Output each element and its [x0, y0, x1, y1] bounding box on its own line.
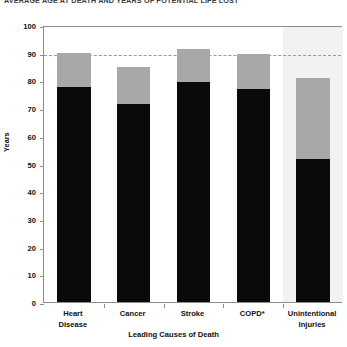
bar-cancer	[117, 67, 150, 302]
y-axis-label: 70	[28, 105, 36, 114]
y-axis-tick	[40, 110, 44, 111]
bar-segment-age-at-death	[237, 89, 270, 302]
bar-segment-years-lost	[237, 54, 270, 89]
bar-segment-years-lost	[57, 53, 90, 88]
y-axis-label: 40	[28, 188, 36, 197]
bar-segment-age-at-death	[296, 159, 329, 302]
bar-segment-years-lost	[177, 49, 210, 82]
x-axis-title: Leading Causes of Death	[0, 330, 347, 339]
y-axis-label: 50	[28, 160, 36, 169]
bar-segment-years-lost	[117, 67, 150, 104]
x-axis-tick	[283, 304, 284, 308]
y-axis-label: 90	[28, 49, 36, 58]
y-axis-label: 100	[23, 22, 36, 31]
y-axis-tick	[40, 276, 44, 277]
y-axis-label: 80	[28, 77, 36, 86]
chart-title: AVERAGE AGE AT DEATH AND YEARS OF POTENT…	[4, 0, 304, 5]
y-axis-tick	[40, 193, 44, 194]
y-axis-tick	[40, 27, 44, 28]
x-axis-tick	[164, 304, 165, 308]
plot-area	[43, 26, 342, 303]
y-axis-tick	[40, 166, 44, 167]
y-axis-label: 60	[28, 132, 36, 141]
bar-segment-age-at-death	[57, 87, 90, 302]
bar-stroke	[177, 49, 210, 302]
chart-container: AVERAGE AGE AT DEATH AND YEARS OF POTENT…	[0, 0, 347, 347]
y-axis-title: Years	[2, 132, 11, 152]
y-axis-tick	[40, 249, 44, 250]
bar-unintentional-injuries	[296, 78, 329, 302]
bar-copd	[237, 54, 270, 302]
bar-segment-years-lost	[296, 78, 329, 160]
y-axis-tick	[40, 304, 44, 305]
y-axis-label: 30	[28, 215, 36, 224]
plot-inner	[44, 27, 341, 302]
bar-segment-age-at-death	[117, 104, 150, 302]
x-axis-tick	[223, 304, 224, 308]
x-axis-label: UnintentionalInjuries	[275, 309, 347, 330]
bar-heart-disease	[57, 53, 90, 302]
y-axis-label: 20	[28, 243, 36, 252]
y-axis-tick	[40, 221, 44, 222]
x-axis-tick	[104, 304, 105, 308]
y-axis-tick	[40, 82, 44, 83]
y-axis-label: 0	[32, 299, 36, 308]
y-axis-tick	[40, 138, 44, 139]
bar-segment-age-at-death	[177, 82, 210, 302]
y-axis-label: 10	[28, 271, 36, 280]
